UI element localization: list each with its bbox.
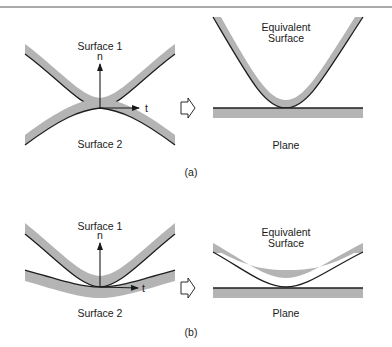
panel-b: n t Surface 1 Surface 2 Equivalent Surfa…: [25, 220, 363, 338]
transform-arrow-icon: [181, 278, 195, 298]
panel-b-plane-label: Plane: [273, 307, 300, 319]
panel-a-plane-label: Plane: [273, 139, 300, 151]
transform-arrow-icon: [181, 98, 195, 118]
panel-a-surface-2-label: Surface 2: [78, 138, 123, 150]
panel-a-plane: [213, 108, 363, 118]
panel-b-equivalent-surface: [213, 243, 363, 287]
panel-b-tangent-label: t: [142, 282, 145, 294]
panel-b-equivalent-label-2: Surface: [268, 237, 304, 249]
panel-a-surface-1-label: Surface 1: [78, 40, 123, 52]
contact-geometry-figure: n t Surface 1 Surface 2 Equivalent Surfa…: [0, 0, 392, 347]
panel-b-caption: (b): [185, 326, 198, 338]
panel-a: n t Surface 1 Surface 2 Equivalent Surfa…: [25, 17, 363, 178]
panel-b-surface-2-label: Surface 2: [78, 307, 123, 319]
panel-b-surface-1-label: Surface 1: [78, 220, 123, 232]
panel-a-caption: (a): [185, 166, 198, 178]
panel-a-tangent-label: t: [145, 102, 148, 114]
panel-a-equivalent-label-2: Surface: [268, 32, 304, 44]
panel-b-plane: [213, 288, 363, 298]
